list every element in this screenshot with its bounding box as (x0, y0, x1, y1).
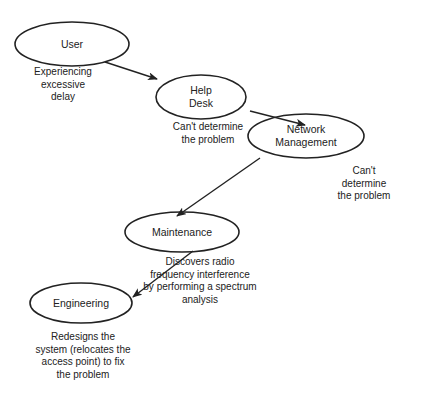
user-node-label: User (61, 38, 83, 51)
maintenance-note: Discovers radio frequency interference b… (143, 256, 256, 306)
edge-user-to-help-desk (105, 62, 157, 79)
user-note: Experiencing excessive delay (34, 66, 92, 104)
help-desk-node-label: Help Desk (189, 84, 213, 110)
edge-network-management-to-maintenance (177, 158, 260, 216)
engineering-note: Redesigns the system (relocates the acce… (35, 331, 130, 381)
network-management-node-label: Network Management (275, 123, 336, 149)
network-management-note: Can't determine the problem (333, 165, 396, 203)
engineering-node-label: Engineering (53, 297, 109, 310)
maintenance-node-label: Maintenance (152, 226, 212, 239)
help-desk-note: Can't determine the problem (173, 121, 243, 146)
